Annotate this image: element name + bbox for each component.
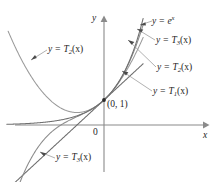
curve-label-t1-right-fn: T: [168, 86, 173, 96]
curve-label-t3-bottom-lhs: y =: [56, 152, 71, 162]
x-axis-arrowhead: [203, 122, 210, 129]
curve-label-t2-right-sub: 2: [178, 66, 181, 73]
curve-label-t3-right-arg: (x): [180, 35, 191, 45]
curve-label-t3-bottom-sub: 3: [77, 156, 80, 163]
point-label-0-1: (0, 1): [107, 100, 128, 110]
curve-label-t3-right: y = T3(x): [156, 36, 191, 46]
curve-label-t1-right: y = T1(x): [153, 87, 188, 97]
leader-arrow-t3-bottom: [40, 152, 46, 156]
leader-arrow-t2-left: [31, 55, 37, 60]
curve-label-t1-right-lhs: y =: [153, 86, 168, 96]
curve-label-t2-left-fn: T: [63, 44, 68, 54]
leader-arrow-t2-right: [128, 40, 134, 45]
taylor-approximation-figure: y x 0 (0, 1) y = ex y = T3(x) y = T2(x) …: [0, 0, 214, 182]
y-axis-label: y: [92, 14, 96, 24]
curve-label-t3-right-lhs: y =: [156, 35, 171, 45]
curve-label-t2-left-arg: (x): [72, 44, 83, 54]
curve-label-t2-right-arg: (x): [181, 62, 192, 72]
curve-label-t3-right-fn: T: [171, 35, 176, 45]
curve-label-t2-right-fn: T: [172, 62, 177, 72]
curve-label-t3-right-sub: 3: [177, 39, 180, 46]
y-axis-arrowhead: [101, 16, 108, 23]
origin-label: 0: [93, 128, 98, 138]
point-0-1-marker: [102, 98, 106, 102]
curve-label-exp-lhs: y =: [152, 16, 167, 26]
curve-label-t3-bottom: y = T3(x): [56, 153, 91, 163]
curve-label-exp-fn: e: [167, 16, 171, 26]
curve-label-t2-left-sub: 2: [69, 48, 72, 55]
curve-label-t3-bottom-fn: T: [71, 152, 76, 162]
curve-label-t2-right-lhs: y =: [157, 62, 172, 72]
curve-label-t2-left: y = T2(x): [48, 45, 83, 55]
curve-label-exp-exponent: x: [172, 14, 175, 21]
curve-label-t1-right-sub: 1: [174, 90, 177, 97]
curve-label-t2-left-lhs: y =: [48, 44, 63, 54]
curve-label-exp: y = ex: [152, 17, 175, 27]
x-axis-label: x: [203, 131, 207, 141]
curve-label-t3-bottom-arg: (x): [80, 152, 91, 162]
curve-label-t1-right-arg: (x): [177, 86, 188, 96]
curve-label-t2-right: y = T2(x): [157, 63, 192, 73]
